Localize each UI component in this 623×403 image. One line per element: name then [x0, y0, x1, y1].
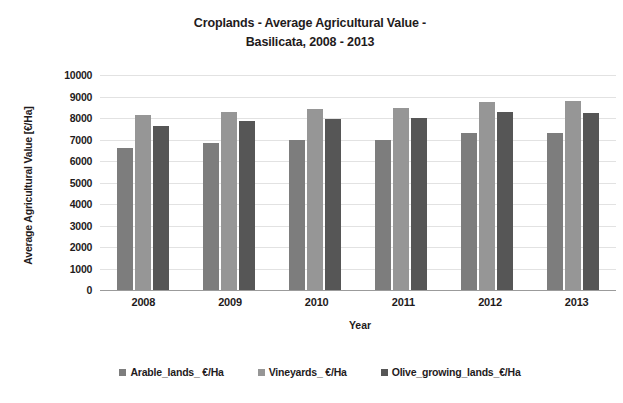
bar[interactable] [479, 102, 495, 290]
x-axis-title: Year [100, 319, 620, 331]
chart-legend: Arable_lands_ €/Ha Vineyards_ €/Ha Olive… [60, 366, 580, 378]
bar-group [358, 75, 444, 290]
bar[interactable] [135, 115, 151, 290]
y-axis-title: Average Agricultural Value [€/Ha] [22, 78, 38, 293]
y-axis-tick-labels: 10000 9000 8000 7000 6000 5000 4000 3000… [52, 68, 96, 294]
y-tick-label: 9000 [70, 91, 92, 103]
bar[interactable] [565, 101, 581, 290]
bar-group [530, 75, 616, 290]
bar[interactable] [153, 126, 169, 290]
bar[interactable] [307, 109, 323, 290]
y-tick-label: 8000 [70, 112, 92, 124]
bar[interactable] [375, 140, 391, 291]
y-tick-label: 2000 [70, 241, 92, 253]
y-tick-label: 7000 [70, 134, 92, 146]
bar[interactable] [547, 133, 563, 290]
y-tick-label: 3000 [70, 220, 92, 232]
legend-swatch-icon [258, 369, 265, 376]
bar-group [186, 75, 272, 290]
y-tick-label: 5000 [70, 177, 92, 189]
bar[interactable] [325, 119, 341, 290]
bar[interactable] [221, 112, 237, 290]
legend-swatch-icon [381, 369, 388, 376]
plot-area [100, 75, 616, 291]
x-axis-tick-labels: 2008 2009 2010 2011 2012 2013 [100, 296, 620, 308]
bar[interactable] [497, 112, 513, 290]
legend-item-olive-growing-lands[interactable]: Olive_growing_lands_€/Ha [381, 366, 521, 378]
x-tick-label: 2008 [100, 296, 187, 308]
legend-swatch-icon [119, 369, 126, 376]
legend-item-label: Arable_lands_ €/Ha [130, 366, 223, 378]
legend-item-arable-lands[interactable]: Arable_lands_ €/Ha [119, 366, 223, 378]
x-tick-label: 2013 [533, 296, 620, 308]
y-tick-label: 4000 [70, 198, 92, 210]
bar-group [100, 75, 186, 290]
bar[interactable] [203, 143, 219, 290]
bar[interactable] [411, 118, 427, 290]
y-tick-label: 6000 [70, 155, 92, 167]
y-tick-label: 10000 [64, 69, 92, 81]
chart-title-line-1: Croplands - Average Agricultural Value - [60, 14, 560, 33]
x-tick-label: 2011 [360, 296, 447, 308]
bar[interactable] [583, 113, 599, 290]
bar[interactable] [393, 108, 409, 290]
bar-chart-figure: Croplands - Average Agricultural Value -… [0, 0, 623, 403]
x-tick-label: 2012 [447, 296, 534, 308]
x-tick-label: 2009 [187, 296, 274, 308]
bar-groups [100, 75, 616, 290]
legend-item-label: Olive_growing_lands_€/Ha [392, 366, 521, 378]
x-tick-label: 2010 [273, 296, 360, 308]
legend-item-label: Vineyards_ €/Ha [269, 366, 347, 378]
chart-title: Croplands - Average Agricultural Value -… [60, 14, 560, 53]
plot-wrapper: 10000 9000 8000 7000 6000 5000 4000 3000… [52, 68, 620, 294]
y-tick-label: 0 [86, 284, 92, 296]
bar-group [444, 75, 530, 290]
y-tick-label: 1000 [70, 263, 92, 275]
chart-title-line-2: Basilicata, 2008 - 2013 [60, 33, 560, 52]
bar-group [272, 75, 358, 290]
bar[interactable] [117, 148, 133, 290]
bar[interactable] [289, 140, 305, 291]
bar[interactable] [239, 121, 255, 290]
bar[interactable] [461, 133, 477, 290]
legend-item-vineyards[interactable]: Vineyards_ €/Ha [258, 366, 347, 378]
